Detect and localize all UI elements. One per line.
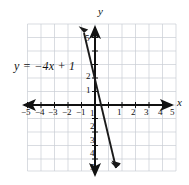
coordinate-plane-figure: y = −4x + 1 −5 −4 −3 −2 −1 1 2 3 4 5 5 2… xyxy=(0,0,189,185)
x-tick-label-4: 4 xyxy=(158,108,163,117)
y-tick-label-neg1: 1 xyxy=(90,109,95,118)
y-tick-label-neg3: 3 xyxy=(90,136,95,145)
x-tick-label-neg2: −2 xyxy=(62,108,72,117)
grid-lines xyxy=(28,24,177,171)
x-tick-label-neg3: −3 xyxy=(48,108,58,117)
x-tick-label-5: 5 xyxy=(170,108,175,117)
equation-annotation: y = −4x + 1 xyxy=(14,59,75,74)
x-axis-name: x xyxy=(177,97,182,108)
y-tick-label-2: 2 xyxy=(86,72,91,81)
x-tick-label-2: 2 xyxy=(131,108,136,117)
y-tick-label-neg5: 5 xyxy=(90,163,95,172)
y-tick-label-neg4: 4 xyxy=(90,149,95,158)
y-tick-label-1: 1 xyxy=(86,86,91,95)
x-tick-label-neg4: −4 xyxy=(35,108,45,117)
x-tick-label-neg1: −1 xyxy=(76,108,86,117)
x-tick-label-1: 1 xyxy=(117,108,122,117)
x-tick-label-neg5: −5 xyxy=(21,108,31,117)
x-tick-label-3: 3 xyxy=(144,108,149,117)
y-tick-label-5: 5 xyxy=(85,34,90,43)
y-tick-label-neg2: 2 xyxy=(90,122,95,131)
plotted-line xyxy=(79,26,121,168)
y-axis-name: y xyxy=(98,6,103,17)
